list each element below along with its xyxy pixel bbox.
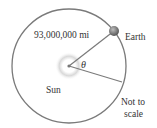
earth-icon (109, 26, 119, 36)
note-line2: scale (124, 109, 143, 119)
earth-orbit-diagram: 93,000,000 mi Earth θ Sun Not to scale (0, 0, 157, 128)
angle-label: θ (81, 59, 86, 70)
sun-label: Sun (46, 85, 61, 95)
note-line1: Not to (121, 97, 145, 107)
distance-label: 93,000,000 mi (34, 30, 90, 40)
earth-label: Earth (125, 32, 146, 42)
